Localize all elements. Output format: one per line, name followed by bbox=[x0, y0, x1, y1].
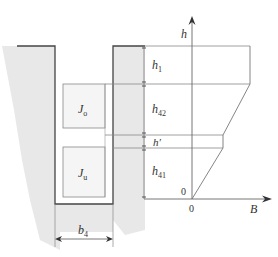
dim-h42-label: h42 bbox=[152, 102, 166, 118]
dim-hprime-label: h′ bbox=[153, 136, 162, 148]
origin-h-label: 0 bbox=[181, 186, 186, 197]
h-axis-label: h bbox=[181, 27, 187, 41]
origin-b-label: 0 bbox=[189, 203, 194, 214]
b-axis-label: B bbox=[250, 202, 258, 216]
iron-bottom bbox=[55, 204, 113, 232]
lower-conductor-box bbox=[63, 147, 105, 197]
slot-diagram: h B 0 0 h1 h42 h′ h41 Jo Ju b4 bbox=[0, 0, 278, 257]
upper-conductor-box bbox=[63, 84, 105, 128]
flux-profile bbox=[192, 46, 250, 199]
iron-right bbox=[113, 46, 145, 235]
iron-left bbox=[2, 46, 60, 250]
dim-h41-label: h41 bbox=[152, 164, 166, 180]
dim-h1-label: h1 bbox=[152, 58, 162, 74]
